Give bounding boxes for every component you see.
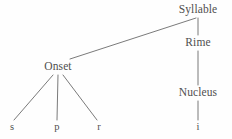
node-terminal-i: i [196,122,199,133]
node-terminal-s: s [10,122,14,133]
node-terminal-r: r [97,122,101,133]
edge-onset-p [57,75,58,120]
node-onset: Onset [44,61,71,73]
node-syllable: Syllable [179,4,218,16]
edge-onset-s [14,75,53,120]
edge-onset-r [63,75,97,120]
node-terminal-p: p [54,122,59,133]
node-nucleus: Nucleus [179,87,217,99]
edge-syllable-onset [70,18,196,59]
node-rime: Rime [185,37,210,49]
syllable-tree-diagram: Syllable Rime Onset Nucleus s p r i [0,0,232,139]
tree-edges-layer [0,0,232,139]
